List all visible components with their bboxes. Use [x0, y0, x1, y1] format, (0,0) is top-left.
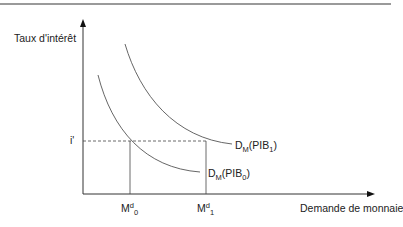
x-axis-arrow-icon: [367, 191, 375, 197]
tick-m0: Md0: [121, 203, 138, 214]
curve-pib1: [125, 44, 232, 144]
curve-pib1-label: DM(PIB1): [235, 140, 277, 151]
tick-m1: Md1: [197, 203, 214, 214]
curve-pib0: [98, 75, 200, 172]
rate-label: i': [70, 135, 74, 146]
x-axis-label: Demande de monnaie: [300, 203, 403, 214]
y-axis-arrow-icon: [80, 19, 86, 27]
curve-pib0-label: DM(PIB0): [208, 168, 250, 179]
y-axis-label: Taux d'intérêt: [14, 33, 76, 44]
